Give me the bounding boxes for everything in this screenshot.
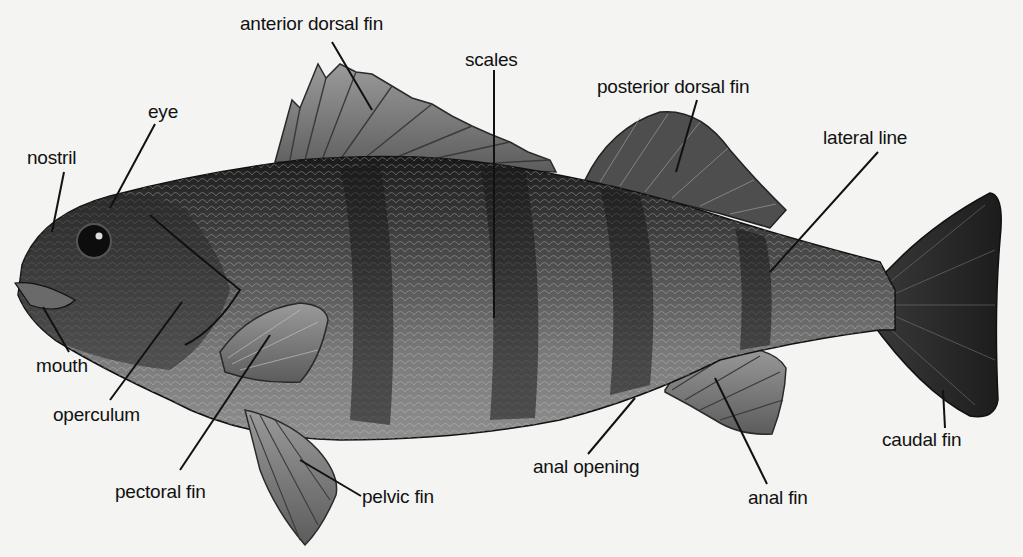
- label-anterior-dorsal-fin: anterior dorsal fin: [240, 14, 383, 33]
- label-pelvic-fin: pelvic fin: [362, 487, 434, 506]
- label-nostril: nostril: [27, 148, 76, 167]
- label-caudal-fin: caudal fin: [882, 430, 961, 449]
- label-posterior-dorsal-fin: posterior dorsal fin: [597, 77, 749, 96]
- label-pectoral-fin: pectoral fin: [115, 482, 206, 501]
- anterior-dorsal-fin-shape: [275, 64, 556, 172]
- fish-anatomy-diagram: anterior dorsal fin scales posterior dor…: [0, 0, 1023, 557]
- label-operculum: operculum: [53, 405, 140, 424]
- label-eye: eye: [148, 102, 178, 121]
- label-lateral-line: lateral line: [823, 128, 907, 147]
- label-scales: scales: [465, 50, 518, 69]
- label-anal-fin: anal fin: [748, 488, 808, 507]
- fish-illustration: [0, 0, 1023, 557]
- label-mouth: mouth: [36, 356, 88, 375]
- label-anal-opening: anal opening: [533, 457, 639, 476]
